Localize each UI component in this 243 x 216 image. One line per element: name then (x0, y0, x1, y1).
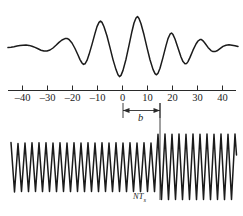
interval-arrowhead-left (123, 108, 130, 113)
nts-label: NTs (133, 192, 146, 203)
axis-tick-label-40: 40 (208, 93, 237, 104)
nts-label-sub: s (143, 196, 146, 203)
lower-waveform-group (11, 134, 237, 200)
lower-waveform-path (11, 134, 237, 200)
figure-canvas (0, 0, 243, 216)
upper-waveform-path (8, 17, 238, 77)
upper-waveform-group (8, 17, 238, 77)
nts-label-main: NT (133, 191, 143, 201)
interval-label-b: b (138, 113, 143, 124)
interval-arrowhead-right (154, 108, 161, 113)
signal-figure: –40 –30 –20 –10 0 10 20 30 40 b NTs (0, 0, 243, 216)
axis-group (8, 86, 236, 91)
